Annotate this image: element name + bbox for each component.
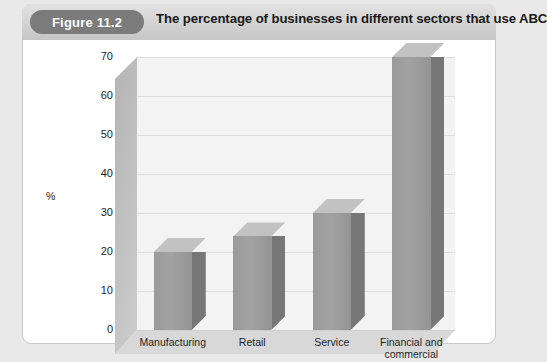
y-tick-label-60: 60 [73, 89, 113, 101]
bar-manufacturing [154, 252, 192, 330]
x-tick-label-financial-and-commercial: Financial and commercial [366, 336, 456, 360]
y-axis-ticks: 010203040506070 [67, 57, 113, 330]
bar-top-face [313, 199, 365, 213]
bar-side-face [192, 252, 206, 330]
y-tick-label-10: 10 [73, 284, 113, 296]
bar-chart: 010203040506070 % ManufacturingRetailSer… [22, 44, 496, 344]
bar-top-face [233, 222, 285, 236]
figure-number-badge: Figure 11.2 [30, 10, 144, 34]
x-tick-label-retail: Retail [207, 336, 297, 348]
y-tick-label-40: 40 [73, 167, 113, 179]
bar-front-face [233, 236, 271, 330]
bar-front-face [313, 213, 351, 330]
bar-front-face [154, 252, 192, 330]
bar-top-face [392, 43, 444, 57]
y-tick-label-0: 0 [73, 323, 113, 335]
bar-series [137, 57, 455, 330]
y-tick-label-30: 30 [73, 206, 113, 218]
bar-financial-and-commercial [392, 57, 430, 330]
chart-left-wall [115, 57, 139, 354]
x-tick-label-service: Service [287, 336, 377, 348]
gridline-0 [137, 330, 455, 331]
bar-side-face [351, 213, 365, 330]
y-tick-label-20: 20 [73, 245, 113, 257]
x-axis-labels: ManufacturingRetailServiceFinancial and … [137, 336, 477, 362]
bar-top-face [154, 238, 206, 252]
y-axis-label: % [46, 190, 55, 202]
x-tick-label-manufacturing: Manufacturing [128, 336, 218, 348]
bar-side-face [271, 236, 285, 330]
y-tick-label-70: 70 [73, 50, 113, 62]
y-tick-label-50: 50 [73, 128, 113, 140]
figure-title: The percentage of businesses in differen… [156, 11, 486, 26]
bar-service [313, 213, 351, 330]
bar-retail [233, 236, 271, 330]
bar-side-face [430, 57, 444, 330]
bar-front-face [392, 57, 430, 330]
